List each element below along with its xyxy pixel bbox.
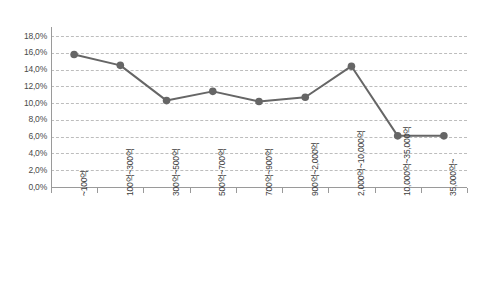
data-point bbox=[163, 97, 171, 105]
data-series-layer bbox=[0, 0, 490, 288]
data-point bbox=[440, 132, 448, 140]
line-chart: 0,0%2,0%4,0%6,0%8,0%10,0%12,0%14,0%16,0%… bbox=[0, 0, 490, 288]
x-axis-category-label: ~100억 bbox=[79, 170, 89, 196]
data-point bbox=[394, 132, 402, 140]
data-point bbox=[117, 62, 125, 70]
data-point bbox=[301, 93, 309, 101]
x-axis-category-label: 900억~2,000억 bbox=[310, 142, 320, 196]
data-point bbox=[255, 98, 263, 106]
data-point bbox=[70, 51, 78, 59]
x-axis-category-label: 2,000억~10,000억 bbox=[356, 131, 366, 196]
x-axis-category-label: 300억~500억 bbox=[171, 148, 181, 196]
series-line bbox=[74, 54, 444, 135]
x-axis-category-label: 100억~300억 bbox=[125, 148, 135, 196]
x-axis-category-label: 35,000억~ bbox=[448, 159, 458, 196]
x-axis-category-label: 10,000억~35,000억 bbox=[402, 126, 412, 196]
x-axis-category-label: 700억~900억 bbox=[264, 148, 274, 196]
data-point bbox=[209, 88, 217, 96]
x-axis-category-label: 500억~700억 bbox=[217, 148, 227, 196]
data-point bbox=[348, 62, 356, 70]
